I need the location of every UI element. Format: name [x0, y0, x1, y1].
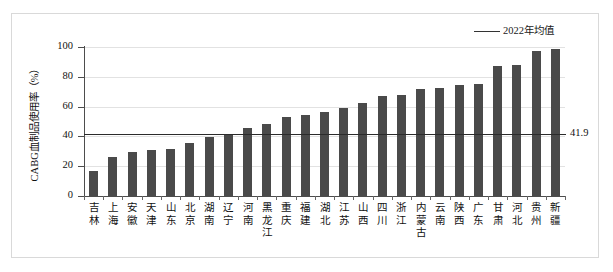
- chart-figure: 2022年均值 CABG血制品使用率（%） 020406080100 41.9 …: [0, 0, 613, 272]
- x-axis-label-char: 广: [473, 202, 483, 215]
- y-tick-mark-60: [78, 107, 84, 108]
- x-tick-mark: [180, 196, 181, 200]
- bar: [455, 85, 464, 196]
- x-axis-label-char: 山: [358, 202, 368, 215]
- plot-area: [84, 47, 565, 196]
- x-axis-label-char: 龙: [262, 215, 272, 228]
- x-axis-label: 甘肃: [489, 202, 507, 227]
- x-axis-label-char: 疆: [550, 215, 560, 228]
- bar: [339, 108, 348, 196]
- bar: [166, 149, 175, 196]
- x-axis-label-char: 南: [243, 215, 253, 228]
- x-axis-label-char: 黑: [262, 202, 272, 215]
- x-axis-line: [84, 196, 566, 197]
- x-axis-label: 江苏: [335, 202, 353, 227]
- x-tick-mark: [469, 196, 470, 200]
- y-tick-mark-20: [78, 166, 84, 167]
- x-axis-label-char: 天: [146, 202, 156, 215]
- y-tick-mark-40: [78, 136, 84, 137]
- x-tick-mark: [373, 196, 374, 200]
- reference-line-value-label: 41.9: [570, 128, 588, 139]
- x-axis-label-char: 西: [454, 215, 464, 228]
- x-axis-label: 福建: [296, 202, 314, 227]
- x-axis-label-char: 南: [204, 215, 214, 228]
- x-tick-mark: [565, 196, 566, 200]
- x-tick-mark: [142, 196, 143, 200]
- x-tick-mark: [199, 196, 200, 200]
- bar: [474, 84, 483, 196]
- x-tick-mark: [488, 196, 489, 200]
- bar: [128, 152, 137, 196]
- bar: [435, 88, 444, 196]
- x-axis-labels: 吉林上海安徽天津山东北京湖南辽宁河南黑龙江重庆福建湖北江苏山西四川浙江内蒙古云南…: [84, 202, 566, 258]
- x-axis-label: 黑龙江: [258, 202, 276, 240]
- bar: [493, 66, 502, 196]
- x-axis-label-char: 徽: [127, 215, 137, 228]
- x-axis-label-char: 北: [512, 215, 522, 228]
- x-axis-label-char: 东: [166, 215, 176, 228]
- x-axis-label: 云南: [431, 202, 449, 227]
- x-axis-label: 河南: [239, 202, 257, 227]
- x-axis-label-char: 上: [108, 202, 118, 215]
- y-tick-label-0: 0: [33, 190, 73, 201]
- x-tick-mark: [411, 196, 412, 200]
- x-axis-label-char: 浙: [396, 202, 406, 215]
- legend-line-icon: [474, 31, 500, 32]
- x-axis-label-char: 陕: [454, 202, 464, 215]
- y-tick-mark-100: [78, 47, 84, 48]
- bar: [243, 128, 252, 196]
- bar: [532, 51, 541, 196]
- y-tick-mark-80: [78, 77, 84, 78]
- y-tick-label-80: 80: [33, 71, 73, 82]
- y-tick-label-60: 60: [33, 101, 73, 112]
- x-axis-label-char: 甘: [493, 202, 503, 215]
- bar: [416, 89, 425, 196]
- x-axis-label-char: 宁: [223, 215, 233, 228]
- x-tick-mark: [450, 196, 451, 200]
- y-tick-label-40: 40: [33, 130, 73, 141]
- x-axis-label-char: 林: [89, 215, 99, 228]
- x-axis-label-char: 肃: [493, 215, 503, 228]
- x-tick-mark: [276, 196, 277, 200]
- x-axis-label: 吉林: [85, 202, 103, 227]
- bar: [224, 134, 233, 196]
- x-axis-label-char: 吉: [89, 202, 99, 215]
- x-tick-mark: [527, 196, 528, 200]
- x-axis-label-char: 州: [531, 215, 541, 228]
- bar: [320, 112, 329, 196]
- x-tick-mark: [161, 196, 162, 200]
- bar: [262, 124, 271, 196]
- x-axis-label-char: 辽: [223, 202, 233, 215]
- x-axis-label-char: 古: [416, 227, 426, 240]
- x-tick-mark: [315, 196, 316, 200]
- y-axis-line: [84, 46, 85, 197]
- x-axis-label-char: 河: [243, 202, 253, 215]
- bar: [108, 157, 117, 196]
- x-axis-label-char: 福: [300, 202, 310, 215]
- x-axis-label-char: 新: [550, 202, 560, 215]
- y-axis-title: CABG血制品使用率（%）: [26, 47, 42, 197]
- x-axis-label-char: 四: [377, 202, 387, 215]
- x-tick-mark: [546, 196, 547, 200]
- x-axis-label-char: 安: [127, 202, 137, 215]
- bar: [282, 117, 291, 196]
- x-axis-label: 浙江: [392, 202, 410, 227]
- legend-label-mean: 2022年均值: [503, 26, 554, 37]
- x-axis-label-char: 湖: [204, 202, 214, 215]
- x-axis-label: 山西: [354, 202, 372, 227]
- x-axis-label-char: 江: [262, 227, 272, 240]
- x-axis-label-char: 内: [416, 202, 426, 215]
- bar: [89, 171, 98, 196]
- bar: [397, 95, 406, 196]
- gridline-100: [84, 47, 565, 48]
- x-axis-label: 内蒙古: [412, 202, 430, 240]
- x-axis-label: 湖南: [200, 202, 218, 227]
- x-tick-mark: [334, 196, 335, 200]
- x-axis-label-char: 海: [108, 215, 118, 228]
- x-tick-mark: [430, 196, 431, 200]
- bar: [147, 150, 156, 196]
- bar: [358, 103, 367, 196]
- bar: [185, 143, 194, 196]
- y-tick-label-20: 20: [33, 160, 73, 171]
- x-axis-label-char: 庆: [281, 215, 291, 228]
